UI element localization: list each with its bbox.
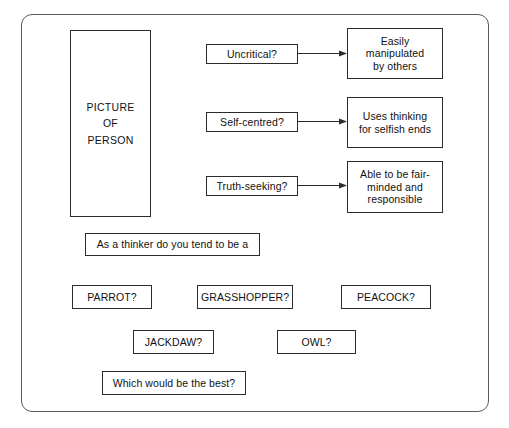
closing-question-box: Which would be the best?: [102, 371, 246, 395]
answer-label-jackdaw: JACKDAW?: [137, 336, 210, 348]
diagram-canvas: PICTURE OF PERSON Uncritical? Easily man…: [0, 0, 509, 428]
prompt-label: As a thinker do you tend to be a: [89, 238, 256, 250]
question-label-self-centred: Self-centred?: [210, 116, 294, 128]
closing-question-label: Which would be the best?: [106, 377, 242, 389]
outcome-line-2: minded and: [351, 181, 439, 193]
outcome-line-1: Easily: [351, 35, 439, 47]
answer-label-grasshopper: GRASSHOPPER?: [201, 291, 289, 303]
outcome-line-3: by others: [351, 60, 439, 72]
answer-box-peacock: PEACOCK?: [341, 285, 431, 309]
outcome-box-selfish-ends: Uses thinking for selfish ends: [347, 97, 443, 148]
answer-box-grasshopper: GRASSHOPPER?: [197, 285, 293, 309]
answer-label-peacock: PEACOCK?: [345, 291, 427, 303]
picture-placeholder-line-2: OF: [74, 115, 147, 131]
answer-box-parrot: PARROT?: [72, 285, 152, 309]
outcome-box-fair-minded: Able to be fair- minded and responsible: [347, 161, 443, 213]
outcome-box-easily-manipulated: Easily manipulated by others: [347, 28, 443, 79]
prompt-box-thinker-type: As a thinker do you tend to be a: [85, 233, 260, 256]
outcome-line-3: responsible: [351, 193, 439, 205]
question-box-truth-seeking: Truth-seeking?: [206, 176, 298, 196]
picture-placeholder-line-1: PICTURE: [74, 99, 147, 115]
outcome-line-2: manipulated: [351, 47, 439, 59]
question-label-truth-seeking: Truth-seeking?: [210, 180, 294, 192]
answer-box-owl: OWL?: [277, 330, 356, 354]
outcome-line-1: Uses thinking: [351, 110, 439, 122]
picture-of-person-placeholder: PICTURE OF PERSON: [70, 30, 151, 217]
outcome-line-1: Able to be fair-: [351, 168, 439, 180]
outcome-line-2: for selfish ends: [351, 123, 439, 135]
answer-label-owl: OWL?: [281, 336, 352, 348]
question-label-uncritical: Uncritical?: [210, 48, 294, 60]
answer-label-parrot: PARROT?: [76, 291, 148, 303]
picture-placeholder-line-3: PERSON: [74, 132, 147, 148]
question-box-self-centred: Self-centred?: [206, 112, 298, 132]
answer-box-jackdaw: JACKDAW?: [133, 330, 214, 354]
question-box-uncritical: Uncritical?: [206, 44, 298, 64]
